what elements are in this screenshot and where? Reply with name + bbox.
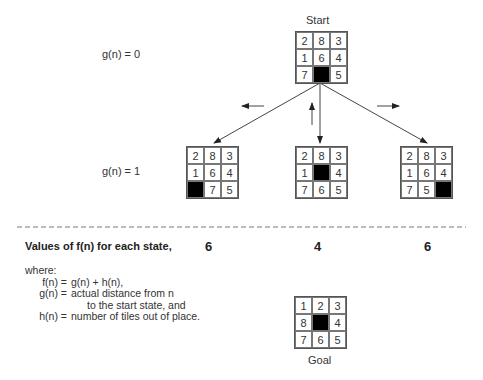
tile: 6 bbox=[313, 49, 330, 66]
tile: 8 bbox=[313, 32, 330, 49]
child-state-grid-left: 2 8 3 1 6 4 7 5 bbox=[186, 146, 239, 199]
legend-row: g(n) = actual distance from n bbox=[25, 288, 200, 300]
tile: 6 bbox=[418, 164, 435, 181]
tile: 2 bbox=[296, 147, 313, 164]
tile: 4 bbox=[221, 164, 238, 181]
legend-row: h(n) = number of tiles out of place. bbox=[25, 311, 200, 323]
child-state-grid-middle: 2 8 3 1 4 7 6 5 bbox=[295, 146, 348, 199]
tile: 6 bbox=[313, 181, 330, 198]
tile: 1 bbox=[295, 297, 312, 314]
edge-to-right-child bbox=[320, 83, 427, 143]
tile: 4 bbox=[435, 164, 452, 181]
tile: 6 bbox=[312, 331, 329, 348]
start-label: Start bbox=[306, 14, 329, 26]
tile: 8 bbox=[313, 147, 330, 164]
tile: 6 bbox=[204, 164, 221, 181]
child-state-grid-right: 2 8 3 1 6 4 7 5 bbox=[400, 146, 453, 199]
tile: 2 bbox=[312, 297, 329, 314]
tile: 7 bbox=[401, 181, 418, 198]
level-0-label: g(n) = 0 bbox=[102, 48, 140, 60]
tile: 2 bbox=[187, 147, 204, 164]
legend-rhs: number of tiles out of place. bbox=[71, 311, 200, 323]
tile: 3 bbox=[330, 147, 347, 164]
f-value-right: 6 bbox=[424, 239, 431, 254]
blank-tile bbox=[313, 66, 330, 83]
goal-label: Goal bbox=[308, 354, 331, 366]
tile: 3 bbox=[221, 147, 238, 164]
tile: 7 bbox=[204, 181, 221, 198]
tile: 7 bbox=[296, 181, 313, 198]
level-1-label: g(n) = 1 bbox=[102, 165, 140, 177]
tile: 1 bbox=[296, 49, 313, 66]
tile: 5 bbox=[221, 181, 238, 198]
legend-rhs: actual distance from n bbox=[71, 288, 174, 300]
tile: 1 bbox=[401, 164, 418, 181]
tile: 2 bbox=[401, 147, 418, 164]
blank-tile bbox=[435, 181, 452, 198]
blank-tile bbox=[312, 314, 329, 331]
tile: 8 bbox=[204, 147, 221, 164]
blank-tile bbox=[187, 181, 204, 198]
tile: 5 bbox=[330, 181, 347, 198]
tile: 7 bbox=[295, 331, 312, 348]
tile: 4 bbox=[330, 49, 347, 66]
values-label: Values of f(n) for each state, bbox=[25, 240, 172, 252]
blank-tile bbox=[313, 164, 330, 181]
tile: 1 bbox=[296, 164, 313, 181]
legend: where: f(n) = g(n) + h(n), g(n) = actual… bbox=[25, 265, 200, 323]
tile: 7 bbox=[296, 66, 313, 83]
f-value-left: 6 bbox=[205, 239, 212, 254]
tile: 8 bbox=[418, 147, 435, 164]
tile: 3 bbox=[435, 147, 452, 164]
legend-where: where: bbox=[25, 265, 200, 277]
tile: 3 bbox=[329, 297, 346, 314]
legend-lhs: h(n) = bbox=[25, 311, 71, 323]
tile: 8 bbox=[295, 314, 312, 331]
tile: 4 bbox=[330, 164, 347, 181]
tile: 5 bbox=[330, 66, 347, 83]
tile: 5 bbox=[418, 181, 435, 198]
start-state-grid: 2 8 3 1 6 4 7 5 bbox=[295, 31, 348, 84]
tile: 5 bbox=[329, 331, 346, 348]
goal-state-grid: 1 2 3 8 4 7 6 5 bbox=[294, 296, 347, 349]
tile: 1 bbox=[187, 164, 204, 181]
edge-to-left-child bbox=[214, 83, 320, 143]
tile: 2 bbox=[296, 32, 313, 49]
legend-lhs: g(n) = bbox=[25, 288, 71, 300]
tile: 4 bbox=[329, 314, 346, 331]
f-value-middle: 4 bbox=[314, 239, 321, 254]
tile: 3 bbox=[330, 32, 347, 49]
